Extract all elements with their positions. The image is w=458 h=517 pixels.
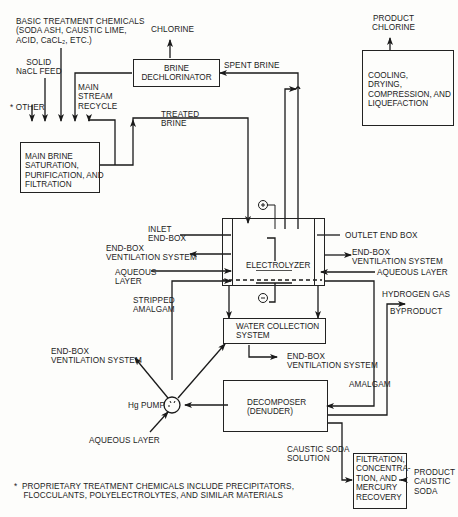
electrolyzer-box [222,218,325,286]
electrolyzer-label: ELECTROLYZER [245,261,311,270]
aqueous-left-label: AQUEOUS LAYER [115,268,157,287]
chlorine-label: CHLORINE [151,25,194,34]
byproduct-label: BYPRODUCT [390,307,442,316]
product-caustic-label: PRODUCT CAUSTIC SODA [414,468,455,496]
electrolyzer-inlet-endbox [222,218,233,286]
caustic-solution-label: CAUSTIC SODA SOLUTION [287,445,350,464]
outlet-endbox-label: OUTLET END BOX [345,231,418,240]
basic-chemicals-label: BASIC TREATMENT CHEMICALS (SODA ASH, CAU… [16,17,145,45]
solid-nacl-label: SOLID NaCL FEED [16,58,62,77]
main-brine-label: MAIN BRINE SATURATION, PURIFICATION, AND… [25,152,104,190]
cooling-label: COOLING, DRYING, COMPRESSION, AND LIQUEF… [368,71,451,109]
main-stream-recycle-label: MAIN STREAM RECYCLE [78,83,117,111]
footnote: * PROPRIETARY TREATMENT CHEMICALS INCLUD… [14,482,294,501]
decomposer-label: DECOMPOSER (DENUDER) [247,398,306,417]
filtration-label: FILTRATION, CONCENTRA- TION, AND MERCURY… [356,455,411,502]
endbox-vent-pump-label: END-BOX VENTILATION SYSTEM [51,347,142,366]
hg-pump-label: Hg PUMP [128,401,165,410]
product-chlorine-label: PRODUCT CHLORINE [372,14,415,33]
inlet-endbox-label: INLET END-BOX [148,225,186,244]
treated-brine-label: TREATED BRINE [161,110,199,129]
amalgam-label: AMALGAM [349,380,391,389]
endbox-vent-left-label: END-BOX VENTILATION SYSTEM [106,244,197,263]
water-collection-label: WATER COLLECTION SYSTEM [236,322,319,341]
electrolyzer-outlet-endbox [314,218,325,286]
aqueous-pump-label: AQUEOUS LAYER [89,436,160,445]
aqueous-right-label: AQUEOUS LAYER [377,268,448,277]
endbox-vent-wcs-label: END-BOX VENTILATION SYSTEM [287,352,378,371]
endbox-vent-right-label: END-BOX VENTILATION SYSTEM [352,248,443,267]
brine-dechlorinator-label: BRINE DECHLORINATOR [139,64,214,83]
hydrogen-label: HYDROGEN GAS [382,290,450,299]
spent-brine-label: SPENT BRINE [224,61,280,70]
stripped-amalgam-label: STRIPPED AMALGAM [133,296,175,315]
other-label: * OTHER [10,103,45,112]
